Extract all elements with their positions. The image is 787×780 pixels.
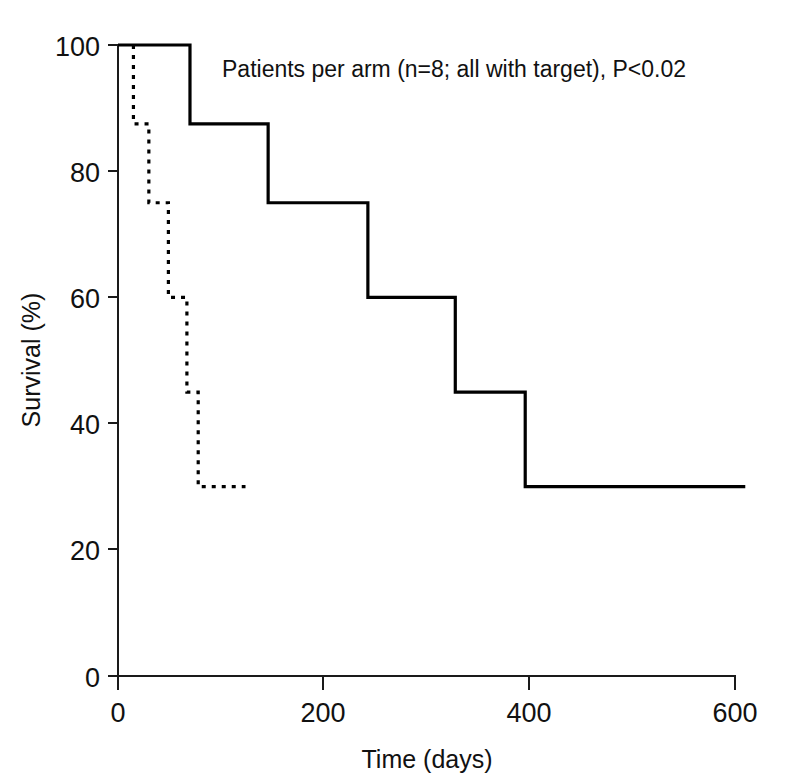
x-tick-label-400: 400 (506, 698, 551, 728)
x-axis-ticks (118, 676, 735, 690)
y-tick-label-0: 0 (85, 663, 100, 693)
x-tick-label-200: 200 (300, 698, 345, 728)
y-tick-label-100: 100 (55, 32, 100, 62)
x-tick-label-0: 0 (110, 698, 125, 728)
survival-curve-treatment (118, 45, 745, 487)
x-tick-label-600: 600 (712, 698, 757, 728)
y-tick-label-60: 60 (70, 284, 100, 314)
x-axis-title: Time (days) (361, 745, 492, 773)
y-axis-ticks (108, 45, 118, 676)
annotation-label: Patients per arm (n=8; all with target),… (222, 56, 686, 82)
y-axis-title: Survival (%) (17, 293, 45, 428)
kaplan-meier-chart: 100 80 60 40 20 0 0 200 400 600 Time (da… (0, 0, 787, 780)
y-tick-label-80: 80 (70, 158, 100, 188)
survival-figure: 100 80 60 40 20 0 0 200 400 600 Time (da… (0, 0, 787, 780)
y-tick-label-40: 40 (70, 410, 100, 440)
y-tick-label-20: 20 (70, 536, 100, 566)
